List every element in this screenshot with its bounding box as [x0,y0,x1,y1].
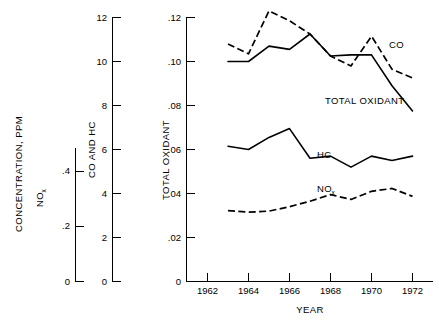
cohc-ticklabel-6: 6 [102,144,107,155]
cohc-ticklabel-4: 4 [102,188,107,199]
cohc-ticklabel-0: 0 [102,276,107,287]
axis-title-nox-sub: x [40,189,47,193]
axis-title-concentration-ppm: CONCENTRATION, PPM [13,116,24,232]
axis-title-total-oxidant: TOTAL OXIDANT [160,120,171,200]
axis-title-co-and-hc: CO AND HC [86,121,97,178]
x-ticklabel-1970: 1970 [361,285,382,296]
nox-ticklabel-2: .2 [62,220,70,231]
data-curves [228,11,413,212]
multi-axis-line-chart: 0 .2 .4 CONCENTRATION, PPM NO x 0 2 4 6 … [0,0,439,326]
series-label-nox-main: NO [317,183,332,194]
series-label-total-oxidant: TOTAL OXIDANT [325,95,404,106]
axis-title-year: YEAR [296,304,324,315]
x-ticklabel-1966: 1966 [279,285,300,296]
series-line-hc [228,129,413,168]
oxidant-ticklabel-0: 0 [176,276,181,287]
cohc-ticklabel-10: 10 [96,56,107,67]
cohc-ticklabel-12: 12 [96,12,107,23]
axis-title-nox-main: NO [34,192,45,207]
series-label-co: CO [389,39,404,50]
oxidant-ticklabel-10: .10 [168,56,181,67]
nox-ticklabel-4: .4 [62,165,70,176]
oxidant-ticklabel-12: .12 [168,12,181,23]
cohc-ticklabel-2: 2 [102,232,107,243]
x-axis: 1962 1964 1966 1968 1970 1972 YEAR [187,273,434,315]
oxidant-ticklabel-08: .08 [168,100,181,111]
axis-title-nox: NO x [34,189,47,208]
series-annotations: CO TOTAL OXIDANT HC NO x [317,39,404,196]
x-ticklabel-1972: 1972 [402,285,423,296]
series-label-hc: HC [317,149,332,160]
series-label-nox-sub: x [332,189,336,196]
series-label-nox: NO x [317,183,336,196]
nox-ticklabel-0: 0 [65,276,70,287]
x-ticklabel-1962: 1962 [197,285,218,296]
x-ticklabel-1964: 1964 [238,285,259,296]
x-ticklabel-1968: 1968 [320,285,341,296]
cohc-ticklabel-8: 8 [102,100,107,111]
axis-total-oxidant: 0 .02 .04 .06 .08 .10 .12 TOTAL OXIDANT [160,12,195,287]
axis-nox: 0 .2 .4 CONCENTRATION, PPM NO x [13,116,84,287]
axis-co-and-hc: 0 2 4 6 8 10 12 CO AND HC [86,12,121,287]
oxidant-ticklabel-02: .02 [168,232,181,243]
emissions-trend-figure: 0 .2 .4 CONCENTRATION, PPM NO x 0 2 4 6 … [0,0,439,326]
